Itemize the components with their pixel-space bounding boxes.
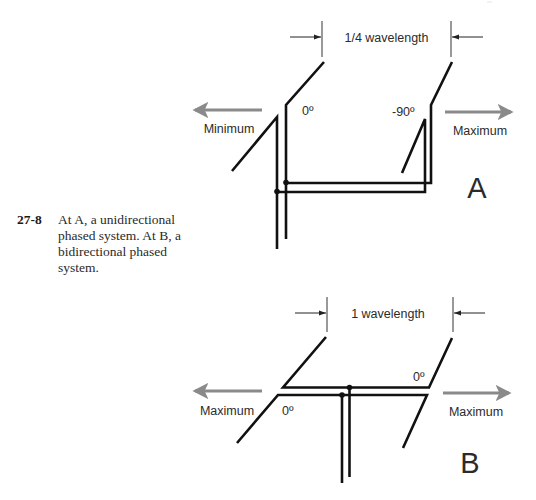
direction-label-left: Maximum: [200, 404, 254, 418]
direction-label-left: Minimum: [204, 122, 255, 136]
phase-label-left: 0º: [302, 104, 314, 118]
dipole-lower-halves: [237, 395, 427, 448]
figure-number: 27-8: [17, 212, 42, 228]
junction-dot: [347, 385, 353, 391]
direction-label-right: Maximum: [449, 405, 503, 419]
spacing-label: 1 wavelength: [351, 307, 425, 321]
direction-label-right: Maximum: [453, 124, 507, 138]
junction-dot: [283, 180, 289, 186]
phase-label-left: 0º: [282, 404, 294, 418]
dipole-left-upper: [286, 62, 324, 239]
dipole-left-lower: [232, 117, 277, 249]
phase-label-right: 0º: [413, 370, 425, 384]
dipole-right-lower: [277, 119, 425, 192]
dipole-right-upper: [286, 62, 452, 183]
spacing-dimension-a: 1/4 wavelength: [290, 21, 483, 57]
dipole-upper-halves: [283, 337, 452, 388]
diagram-a: 1/4 wavelength Minimum Maximum 0º -90º A: [195, 21, 511, 249]
diagram-label-a: A: [467, 172, 487, 204]
diagram-b: 1 wavelength Maximum Maximum 0º 0º B: [195, 297, 509, 483]
caption-text: At A, a unidirectional phased system. At…: [58, 212, 183, 276]
junction-dot: [274, 189, 280, 195]
diagram-label-b: B: [460, 447, 479, 479]
phase-label-right: -90º: [392, 105, 415, 119]
spacing-label: 1/4 wavelength: [344, 31, 428, 45]
junction-dot: [339, 392, 345, 398]
spacing-dimension-b: 1 wavelength: [295, 297, 485, 332]
